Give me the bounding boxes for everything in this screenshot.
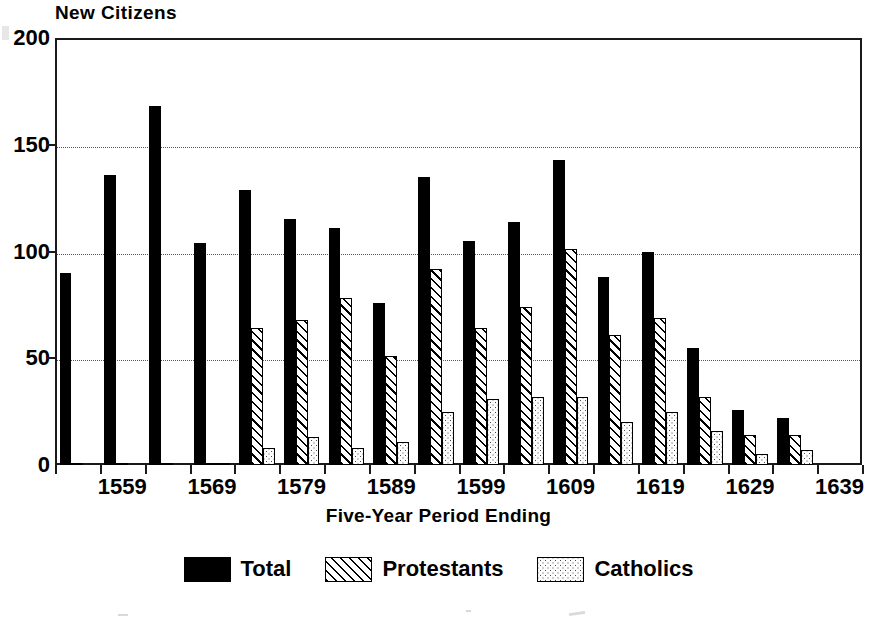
x-tick-label: 1619 — [636, 474, 685, 500]
bar-catholics-1614 — [621, 422, 633, 465]
x-axis-title: Five-Year Period Ending — [0, 505, 877, 527]
bar-catholics-1589 — [397, 442, 409, 465]
bar-catholics-1629 — [756, 454, 768, 465]
bar-protestants-1634 — [789, 435, 801, 465]
bar-catholics-1634 — [801, 450, 813, 465]
y-tick-label: 50 — [0, 345, 50, 371]
bar-total-1624 — [687, 348, 699, 465]
scan-speckle — [2, 26, 9, 40]
x-tick-mark — [503, 465, 505, 474]
bar-total-1629 — [732, 410, 744, 466]
legend-item-total[interactable]: Total — [184, 556, 292, 582]
x-tick-mark — [548, 465, 550, 474]
x-tick-mark — [100, 465, 102, 474]
x-tick-label: 1569 — [187, 474, 236, 500]
x-tick-label: 1579 — [277, 474, 326, 500]
bar-total-1574 — [239, 190, 251, 465]
bar-catholics-1574 — [263, 448, 275, 465]
x-tick-label: 1629 — [725, 474, 774, 500]
bar-total-1564 — [149, 106, 161, 465]
x-tick-mark — [414, 465, 416, 474]
bar-total-1619 — [642, 252, 654, 466]
bar-protestants-1609 — [565, 249, 577, 465]
x-tick-mark — [145, 465, 147, 474]
x-tick-mark — [234, 465, 236, 474]
legend-swatch-total — [184, 557, 231, 582]
bar-protestants-1624 — [699, 397, 711, 465]
bar-catholics-1599 — [487, 399, 499, 465]
x-tick-mark — [772, 465, 774, 474]
x-tick-label: 1609 — [546, 474, 595, 500]
bar-protestants-1559 — [116, 463, 128, 465]
legend-label: Catholics — [594, 556, 693, 582]
x-tick-mark — [55, 465, 57, 474]
bar-total-1609 — [553, 160, 565, 465]
x-tick-mark — [728, 465, 730, 474]
bar-catholics-1609 — [577, 397, 589, 465]
bar-protestants-1589 — [385, 356, 397, 465]
bar-protestants-1564 — [161, 463, 173, 465]
bar-catholics-1604 — [532, 397, 544, 465]
bar-protestants-1619 — [654, 318, 666, 465]
legend-item-protestants[interactable]: Protestants — [325, 556, 503, 582]
bar-total-1614 — [598, 277, 610, 465]
bar-total-1579 — [284, 219, 296, 465]
bar-protestants-1629 — [744, 435, 756, 465]
chart-figure: New Citizens 050100150200 15591569157915… — [0, 0, 877, 634]
bar-total-1589 — [373, 303, 385, 465]
bar-protestants-1569 — [206, 463, 218, 465]
x-tick-mark — [369, 465, 371, 474]
legend-label: Protestants — [382, 556, 503, 582]
x-tick-mark — [190, 465, 192, 474]
bar-catholics-1594 — [442, 412, 454, 465]
bar-catholics-1579 — [308, 437, 320, 465]
y-tick-label: 0 — [0, 452, 50, 478]
bar-protestants-1604 — [520, 307, 532, 465]
x-tick-label: 1559 — [98, 474, 147, 500]
chart-title: New Citizens — [55, 2, 177, 24]
bar-total-1584 — [329, 228, 341, 465]
legend-swatch-protestants — [325, 557, 372, 582]
bar-total-1559 — [104, 175, 116, 465]
bar-total-1569 — [194, 243, 206, 465]
legend-label: Total — [241, 556, 292, 582]
bar-catholics-1624 — [711, 431, 723, 465]
scan-speckle — [118, 614, 128, 616]
x-tick-mark — [279, 465, 281, 474]
x-tick-mark — [593, 465, 595, 474]
bar-catholics-1569 — [218, 463, 230, 465]
bar-catholics-1619 — [666, 412, 678, 465]
bar-total-1599 — [463, 241, 475, 465]
x-tick-mark — [862, 465, 864, 474]
legend-item-catholics[interactable]: Catholics — [537, 556, 693, 582]
y-tick-label: 150 — [0, 132, 50, 158]
legend-swatch-catholics — [537, 557, 584, 582]
chart-legend: TotalProtestantsCatholics — [0, 556, 877, 582]
bar-protestants-1574 — [251, 328, 263, 465]
bar-protestants-1579 — [296, 320, 308, 465]
bar-catholics-1584 — [352, 448, 364, 465]
bars-layer — [55, 38, 862, 465]
scan-speckle — [569, 611, 585, 616]
x-tick-mark — [683, 465, 685, 474]
bar-protestants-1594 — [430, 269, 442, 465]
x-tick-mark — [324, 465, 326, 474]
x-tick-label: 1599 — [456, 474, 505, 500]
bar-protestants-1599 — [475, 328, 487, 465]
bar-total-1594 — [418, 177, 430, 465]
x-tick-label: 1639 — [815, 474, 864, 500]
y-tick-label: 100 — [0, 239, 50, 265]
bar-protestants-1584 — [340, 298, 352, 465]
bar-total-1634 — [777, 418, 789, 465]
bar-protestants-1614 — [609, 335, 621, 465]
x-tick-mark — [817, 465, 819, 474]
x-tick-mark — [638, 465, 640, 474]
bar-protestants-1554 — [71, 463, 83, 465]
bar-total-1604 — [508, 222, 520, 465]
bar-total-1554 — [60, 273, 72, 465]
x-tick-mark — [459, 465, 461, 474]
x-tick-label: 1589 — [367, 474, 416, 500]
scan-speckle — [466, 610, 471, 612]
